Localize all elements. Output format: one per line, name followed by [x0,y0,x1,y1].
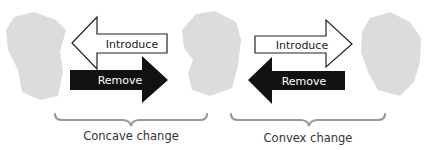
concave-brace [55,114,207,126]
concave-change-label: Concave change [83,129,179,143]
introduce-label-right: Introduce [276,39,329,52]
remove-label-left: Remove [98,74,143,87]
remove-arrow-right: Remove [70,56,168,103]
right-convex-shape [361,12,421,96]
remove-arrow-left: Remove [248,57,345,104]
introduce-label-left: Introduce [106,38,159,51]
introduce-arrow-left: Introduce [72,17,167,69]
left-concave-shape [6,12,66,100]
remove-label-right: Remove [282,75,327,88]
convex-change-label: Convex change [264,131,353,145]
middle-concave-shape [182,11,241,96]
concave-convex-diagram: Introduce Remove Introduce Remove Concav… [0,0,429,150]
convex-brace [231,114,385,126]
